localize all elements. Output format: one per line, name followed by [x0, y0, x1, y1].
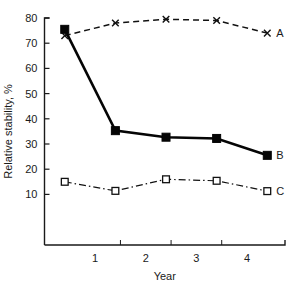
- data-point-c: [264, 188, 271, 195]
- series-label-c: C: [276, 185, 284, 197]
- line-chart: 1020304050607080 1234 Year Relative stab…: [0, 0, 299, 284]
- y-tick-label: 10: [25, 188, 37, 200]
- x-tick-label: 3: [193, 252, 199, 264]
- data-point-b: [263, 151, 271, 159]
- data-point-c: [61, 178, 68, 185]
- data-point-c: [163, 176, 170, 183]
- series-label-a: A: [276, 27, 284, 39]
- x-axis-ticks: [120, 240, 221, 245]
- data-point-b: [111, 127, 119, 135]
- data-point-c: [112, 187, 119, 194]
- x-tick-label: 4: [244, 252, 250, 264]
- data-point-b: [61, 25, 69, 33]
- chart-container: 1020304050607080 1234 Year Relative stab…: [0, 0, 299, 284]
- data-point-c: [213, 177, 220, 184]
- data-point-b: [213, 134, 221, 142]
- y-axis-line: [45, 18, 50, 245]
- y-tick-label: 50: [25, 88, 37, 100]
- y-axis-ticks: [45, 18, 50, 194]
- x-tick-label: 2: [143, 252, 149, 264]
- data-point-b: [162, 133, 170, 141]
- y-tick-label: 20: [25, 163, 37, 175]
- y-tick-label: 80: [25, 12, 37, 24]
- y-tick-label: 40: [25, 113, 37, 125]
- series-markers-group: [61, 16, 272, 195]
- y-tick-label: 30: [25, 138, 37, 150]
- series-line-a: [65, 19, 268, 35]
- series-lines-group: [65, 19, 268, 191]
- x-tick-label: 1: [92, 252, 98, 264]
- y-tick-label: 60: [25, 62, 37, 74]
- series-end-labels: ABC: [276, 27, 284, 197]
- y-axis-tick-labels: 1020304050607080: [25, 12, 37, 200]
- x-axis-tick-labels: 1234: [92, 252, 250, 264]
- x-axis-title: Year: [154, 270, 177, 282]
- series-label-b: B: [276, 149, 283, 161]
- axes-group: [45, 18, 286, 245]
- y-axis-title: Relative stability, %: [2, 84, 14, 179]
- x-axis-line: [45, 240, 286, 245]
- y-tick-label: 70: [25, 37, 37, 49]
